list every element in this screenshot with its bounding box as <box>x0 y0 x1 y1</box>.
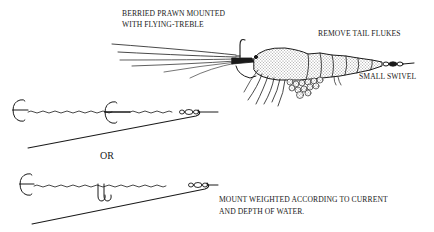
treble-double-hook-mount <box>20 174 218 224</box>
prawn-title-line1: BERRIED PRAWN MOUNTED <box>122 8 225 19</box>
prawn-title-line2: WITH FLYING-TREBLE <box>122 19 204 30</box>
weighted-label-line2: AND DEPTH OF WATER. <box>219 206 304 217</box>
weighted-label-line1: MOUNT WEIGHTED ACCORDING TO CURRENT <box>219 194 388 205</box>
remove-tail-label: REMOVE TAIL FLUKES <box>318 28 401 39</box>
or-label: OR <box>100 150 114 162</box>
two-treble-mount <box>13 100 218 148</box>
small-swivel <box>383 62 403 66</box>
swivel-label: SMALL SWIVEL <box>359 71 416 82</box>
flying-treble-hook <box>236 40 245 60</box>
prawn-mount-diagram: BERRIED PRAWN MOUNTED WITH FLYING-TREBLE… <box>0 0 434 232</box>
prawn-line <box>403 63 414 64</box>
